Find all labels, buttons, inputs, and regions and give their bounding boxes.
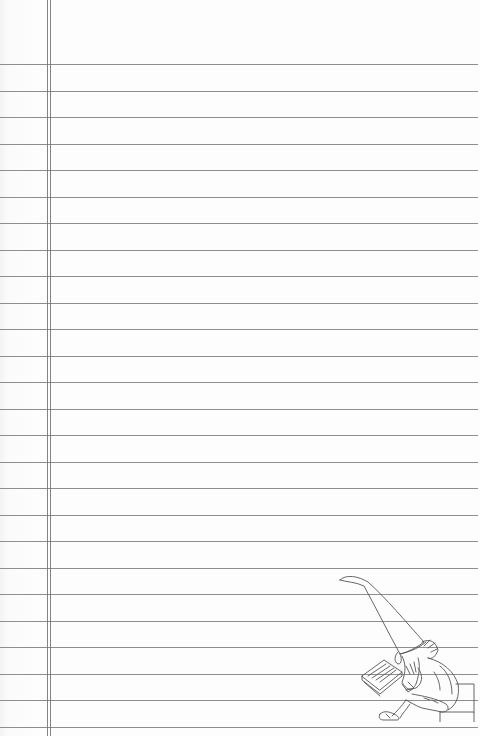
ruled-line [0,515,478,516]
margin-line [47,0,48,736]
ruled-line [0,117,478,118]
ruled-line [0,223,478,224]
gnome-reading-book-icon [336,572,480,722]
ruled-line [0,541,478,542]
ruled-line [0,382,478,383]
ruled-line [0,488,478,489]
ruled-line [0,250,478,251]
ruled-line [0,276,478,277]
ruled-line [0,91,478,92]
margin-line [50,0,51,736]
ruled-line [0,568,478,569]
ruled-line [0,197,478,198]
ruled-line [0,329,478,330]
ruled-line [0,356,478,357]
ruled-line [0,144,478,145]
ruled-line [0,303,478,304]
ruled-line [0,64,478,65]
ruled-line [0,170,478,171]
ruled-line [0,435,478,436]
ruled-line [0,409,478,410]
ruled-line [0,727,478,728]
ruled-line [0,462,478,463]
